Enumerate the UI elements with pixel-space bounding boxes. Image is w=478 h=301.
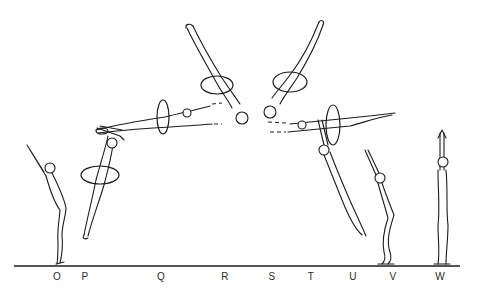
- position-label-v: V: [390, 271, 397, 282]
- figure-u: [318, 120, 366, 236]
- figure-r: [186, 24, 248, 124]
- position-label-t: T: [308, 271, 314, 282]
- gymnastics-diagram: O P Q R S T U V W: [0, 0, 478, 301]
- position-label-o: O: [53, 271, 61, 282]
- figure-p: [81, 126, 124, 239]
- position-label-r: R: [221, 271, 229, 282]
- figure-w: [434, 130, 450, 264]
- position-label-w: W: [435, 271, 445, 282]
- figure-o: [27, 145, 66, 264]
- figure-v: [365, 150, 394, 264]
- position-label-u: U: [349, 271, 357, 282]
- position-label-p: P: [82, 271, 89, 282]
- position-label-q: Q: [157, 271, 165, 282]
- figure-s: [264, 21, 324, 118]
- figure-t: [268, 105, 395, 145]
- position-label-s: S: [269, 271, 276, 282]
- figure-drawing: [0, 0, 478, 301]
